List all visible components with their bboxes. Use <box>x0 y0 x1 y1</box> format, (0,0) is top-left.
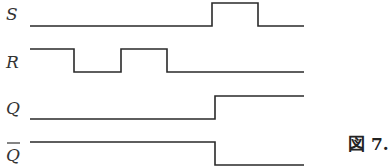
figure-caption: 図 7. <box>348 134 389 154</box>
waveform-q <box>30 96 304 119</box>
waveform-q-bar <box>30 142 304 165</box>
waveform-r <box>30 49 304 72</box>
signal-label-q-bar: Q <box>6 145 20 165</box>
signal-label-s: S <box>6 4 18 24</box>
signal-label-q: Q <box>6 98 20 118</box>
waveform-s <box>30 3 304 26</box>
timing-diagram: S R Q Q 図 7. <box>0 0 390 166</box>
signal-label-r: R <box>5 52 19 72</box>
